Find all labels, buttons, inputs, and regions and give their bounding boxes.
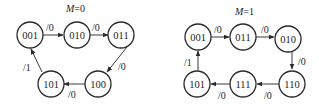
svg-text:001: 001 bbox=[22, 30, 38, 41]
state-node: 010 bbox=[64, 22, 90, 48]
transition-label: /0 bbox=[46, 22, 54, 33]
diagram-title: M=1 bbox=[234, 6, 254, 17]
state-node: 110 bbox=[279, 71, 305, 97]
transition-label: /0 bbox=[261, 24, 269, 35]
svg-text:010: 010 bbox=[69, 30, 85, 41]
state-node: 001 bbox=[17, 22, 43, 48]
diagram-title: M=0 bbox=[65, 3, 85, 14]
state-diagrams: M=0 /0 /0 /0 /0 /1 001 010 011 100 101 M… bbox=[0, 0, 319, 108]
transition-label: /0 bbox=[264, 90, 272, 101]
svg-text:011: 011 bbox=[235, 32, 250, 43]
state-node: 010 bbox=[275, 26, 301, 52]
state-node: 111 bbox=[230, 71, 256, 97]
diagram-m1: M=1 /0 /0 /0 /0 /0 /1 001 011 010 110 11… bbox=[184, 6, 306, 101]
state-node: 101 bbox=[184, 71, 210, 97]
state-node: 101 bbox=[38, 71, 64, 97]
diagram-m0: M=0 /0 /0 /0 /0 /1 001 010 011 100 101 bbox=[17, 3, 134, 100]
state-node: 011 bbox=[230, 24, 256, 50]
transition-label: /0 bbox=[214, 24, 222, 35]
transition-label: /0 bbox=[92, 22, 100, 33]
svg-text:110: 110 bbox=[284, 79, 299, 90]
transition-label: /1 bbox=[184, 57, 192, 68]
transition-label: /0 bbox=[218, 90, 226, 101]
transition-label: /0 bbox=[118, 61, 126, 72]
state-node: 001 bbox=[185, 24, 211, 50]
svg-text:001: 001 bbox=[190, 32, 206, 43]
svg-text:011: 011 bbox=[113, 30, 128, 41]
svg-text:010: 010 bbox=[280, 34, 296, 45]
transition-label: /0 bbox=[298, 56, 306, 67]
svg-text:101: 101 bbox=[43, 79, 59, 90]
transition-label: /1 bbox=[23, 62, 31, 73]
svg-text:111: 111 bbox=[236, 79, 251, 90]
state-node: 011 bbox=[108, 22, 134, 48]
transition-edge bbox=[31, 49, 42, 72]
state-node: 100 bbox=[85, 71, 111, 97]
svg-text:100: 100 bbox=[90, 79, 106, 90]
svg-text:101: 101 bbox=[189, 79, 205, 90]
transition-label: /0 bbox=[68, 89, 76, 100]
